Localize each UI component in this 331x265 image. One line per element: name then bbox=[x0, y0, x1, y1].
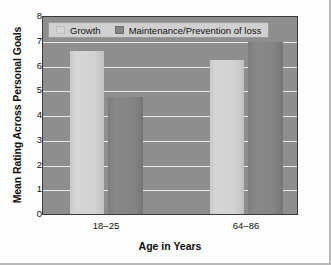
y-tick-label: 2 bbox=[22, 160, 42, 169]
x-tick-label: 64–86 bbox=[201, 220, 291, 231]
y-tick-label: 1 bbox=[22, 184, 42, 193]
bar-growth-18-25 bbox=[70, 51, 104, 214]
y-tick-label: 6 bbox=[22, 61, 42, 70]
growth-swatch-icon bbox=[56, 26, 65, 34]
bar-growth-64-86 bbox=[210, 60, 244, 214]
legend-label: Growth bbox=[70, 25, 101, 36]
maintenance-swatch-icon bbox=[115, 26, 124, 34]
x-axis-title: Age in Years bbox=[42, 240, 298, 252]
bar-maintenance-18-25 bbox=[108, 97, 143, 214]
y-tick-label: 0 bbox=[22, 209, 42, 218]
legend-label: Maintenance/Prevention of loss bbox=[129, 25, 262, 36]
bar-maintenance-64-86 bbox=[248, 42, 283, 214]
plot-area bbox=[42, 16, 298, 215]
legend-item-growth: Growth bbox=[56, 25, 101, 36]
chart-legend: Growth Maintenance/Prevention of loss bbox=[48, 22, 269, 38]
y-tick-label: 3 bbox=[22, 135, 42, 144]
x-tick-label: 18–25 bbox=[61, 220, 151, 231]
y-tick-label: 5 bbox=[22, 85, 42, 94]
chart-figure: Mean Rating Across Personal Goals 8 7 6 … bbox=[0, 0, 331, 265]
y-tick-label: 7 bbox=[22, 36, 42, 45]
y-tick-label: 4 bbox=[22, 110, 42, 119]
y-tick-label: 8 bbox=[22, 11, 42, 20]
legend-item-maintenance: Maintenance/Prevention of loss bbox=[115, 25, 262, 36]
